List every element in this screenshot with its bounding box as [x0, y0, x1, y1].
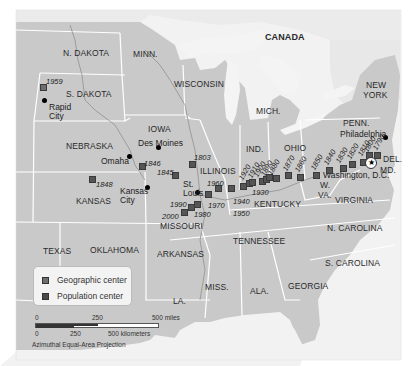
- year-label: 2000: [162, 213, 179, 221]
- map-legend: Geographic center Population center: [33, 266, 132, 306]
- state-label: MINN.: [133, 50, 158, 59]
- projection-label: Azimuthal Equal-Area Projection: [32, 341, 126, 348]
- state-label: ILLINOIS: [200, 167, 236, 176]
- year-label: 1845: [157, 169, 174, 177]
- population-center-marker-icon: [349, 161, 356, 168]
- state-label: IOWA: [148, 125, 171, 134]
- state-label: OHIO: [284, 144, 306, 153]
- state-label: TENNESSEE: [233, 237, 285, 246]
- scale-bar-graphic: [35, 323, 159, 328]
- state-label: ARKANSAS: [157, 250, 204, 259]
- population-center-marker-icon: [313, 172, 320, 179]
- legend-label: Geographic center: [57, 275, 127, 285]
- state-label: S. CAROLINA: [325, 259, 380, 268]
- city-label: Rapid City: [49, 103, 71, 121]
- state-label: N. CAROLINA: [327, 224, 382, 233]
- label-canada: CANADA: [265, 33, 305, 42]
- population-center-marker-icon: [249, 179, 256, 186]
- state-label: ALA.: [250, 287, 269, 296]
- population-center-marker-icon: [297, 174, 304, 181]
- population-center-marker-icon: [340, 165, 347, 172]
- population-center-marker-icon: [273, 175, 280, 182]
- population-center-marker-icon: [285, 172, 292, 179]
- year-label: 1950: [233, 210, 250, 218]
- population-center-swatch-icon: [42, 293, 49, 300]
- city-label: Omaha: [101, 157, 129, 166]
- population-center-marker-icon: [181, 209, 188, 216]
- state-label: S. DAKOTA: [66, 90, 112, 99]
- city-label: Kansas City: [120, 187, 148, 205]
- state-label: WISCONSIN: [174, 80, 224, 89]
- scale-km-500: 500 kilometers: [108, 330, 150, 337]
- legend-item-population: Population center: [42, 291, 123, 301]
- state-label: OKLAHOMA: [90, 246, 139, 255]
- state-label: LA.: [173, 297, 186, 306]
- state-label: KANSAS: [76, 197, 111, 206]
- scale-km-250: 250: [70, 330, 81, 337]
- state-label: NEW: [366, 81, 386, 90]
- state-label: MISSOURI: [160, 222, 203, 231]
- state-label: DEL.: [383, 155, 402, 164]
- state-label: VA.: [318, 191, 331, 200]
- scale-bar: 0 250 500 miles 0 250 500 kilometers Azi…: [34, 314, 164, 354]
- scale-miles-250: 250: [92, 314, 103, 321]
- city-dot-icon: [42, 98, 47, 103]
- year-label: 1803: [194, 154, 211, 162]
- state-label: N. DAKOTA: [63, 49, 109, 58]
- population-center-marker-icon: [326, 167, 333, 174]
- state-label: MICH.: [256, 107, 281, 116]
- base-map: [0, 0, 409, 366]
- state-label: GEORGIA: [288, 282, 328, 291]
- city-label: St. Louis: [183, 180, 203, 198]
- state-label: KENTUCKY: [254, 200, 301, 209]
- year-label: 1959: [46, 78, 63, 86]
- population-center-marker-icon: [205, 191, 212, 198]
- year-label: 1846: [144, 160, 161, 168]
- state-label: MISS.: [205, 283, 229, 292]
- year-label: 1848: [96, 181, 113, 189]
- legend-label: Population center: [57, 291, 123, 301]
- population-center-marker-icon: [194, 201, 201, 208]
- scale-miles-0: 0: [35, 314, 39, 321]
- legend-item-geographic: Geographic center: [42, 275, 127, 285]
- state-label: W.: [320, 181, 330, 190]
- state-label: YORK: [363, 91, 388, 100]
- scale-km-0: 0: [35, 330, 39, 337]
- year-label: 1960: [207, 180, 224, 188]
- scale-miles-500: 500 miles: [152, 314, 180, 321]
- state-label: PENN.: [343, 119, 369, 128]
- year-label: 1980: [194, 211, 211, 219]
- year-label: 1990: [170, 201, 187, 209]
- population-center-marker-icon: [89, 176, 96, 183]
- geographic-center-swatch-icon: [42, 277, 49, 284]
- us-population-centers-map: CANADA N. DAKOTAMINN.S. DAKOTAWISCONSINM…: [0, 0, 409, 366]
- state-label: NEBRASKA: [66, 142, 113, 151]
- year-label: 1930: [252, 189, 269, 197]
- year-label: 1940: [233, 198, 250, 206]
- state-label: VIRGINIA: [335, 196, 373, 205]
- state-label: TEXAS: [43, 247, 71, 256]
- year-label: 1970: [208, 202, 225, 210]
- city-label: Des Moines: [138, 139, 183, 148]
- washington-dc-star-icon: ★: [365, 157, 377, 169]
- population-center-marker-icon: [189, 161, 196, 168]
- population-center-marker-icon: [228, 185, 235, 192]
- state-label: IND.: [246, 145, 263, 154]
